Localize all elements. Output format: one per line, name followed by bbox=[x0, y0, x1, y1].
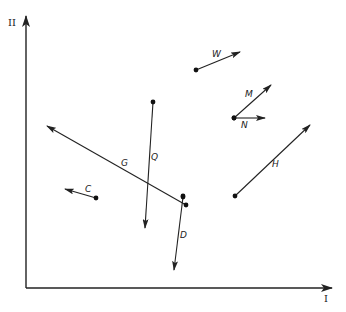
vector-line bbox=[145, 102, 153, 228]
vector-label: H bbox=[272, 159, 279, 169]
vector-tail-point bbox=[232, 116, 237, 121]
vector-label: C bbox=[85, 184, 92, 194]
vector-tail-point bbox=[184, 203, 189, 208]
vector-tail-point bbox=[151, 100, 156, 105]
vector-q: Q bbox=[145, 100, 158, 228]
vector-label: N bbox=[241, 120, 248, 130]
vector-m: M bbox=[232, 85, 271, 120]
vector-label: G bbox=[121, 158, 128, 168]
vectors: WMNHQGCD bbox=[47, 49, 310, 270]
vector-tail-point bbox=[233, 194, 238, 199]
vector-label: W bbox=[212, 49, 222, 59]
vector-tail-point bbox=[194, 68, 199, 73]
vector-tail-point bbox=[94, 196, 99, 201]
vector-label: M bbox=[245, 89, 253, 99]
vector-c: C bbox=[65, 184, 98, 200]
y-axis-label: II bbox=[8, 17, 16, 28]
vector-line bbox=[65, 189, 96, 198]
vector-g: G bbox=[47, 126, 188, 207]
vector-label: Q bbox=[151, 152, 158, 162]
vector-label: D bbox=[180, 230, 187, 240]
vector-n: N bbox=[232, 116, 265, 130]
diagram-svg: III WMNHQGCD bbox=[0, 0, 346, 312]
x-axis-label: I bbox=[324, 293, 328, 304]
vector-w: W bbox=[194, 49, 240, 72]
vector-diagram: III WMNHQGCD bbox=[0, 0, 346, 312]
point bbox=[181, 194, 186, 199]
vector-line bbox=[47, 126, 186, 205]
axes: III bbox=[8, 16, 332, 304]
vector-h: H bbox=[233, 125, 310, 198]
